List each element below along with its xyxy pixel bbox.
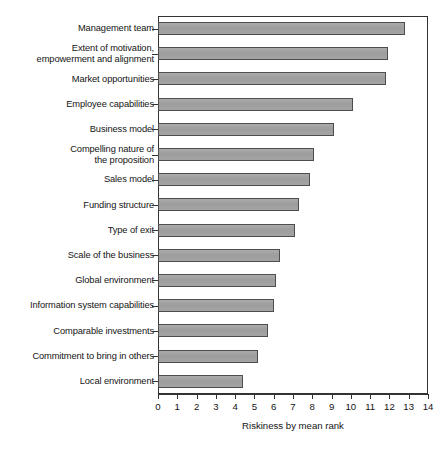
category-label: Local environment	[4, 376, 154, 387]
bar	[158, 148, 314, 161]
x-axis-tick	[351, 394, 352, 399]
bar-row: Market opportunities	[0, 66, 438, 91]
category-label: Compelling nature of the proposition	[4, 144, 154, 165]
bar-track	[158, 92, 428, 117]
x-axis-tick-label: 13	[403, 401, 414, 412]
x-axis-tick-label: 0	[155, 401, 160, 412]
bar	[158, 350, 258, 363]
x-axis-tick-label: 14	[423, 401, 434, 412]
bar-row: Local environment	[0, 369, 438, 394]
bar	[158, 98, 353, 111]
x-axis-tick-label: 6	[271, 401, 276, 412]
x-axis-tick	[389, 394, 390, 399]
category-label: Business model	[4, 124, 154, 135]
bar-row: Compelling nature of the proposition	[0, 142, 438, 167]
x-axis-tick	[197, 394, 198, 399]
category-label: Sales model	[4, 174, 154, 185]
x-axis-tick	[312, 394, 313, 399]
x-axis-tick-label: 8	[310, 401, 315, 412]
category-label: Type of exit	[4, 225, 154, 236]
bar	[158, 324, 268, 337]
bar-track	[158, 167, 428, 192]
x-axis-tick	[216, 394, 217, 399]
x-axis-tick-label: 2	[194, 401, 199, 412]
bar-row: Information system capabilities	[0, 293, 438, 318]
bar	[158, 224, 295, 237]
x-axis-tick-label: 9	[329, 401, 334, 412]
category-label: Management team	[4, 23, 154, 34]
bar-row: Management team	[0, 16, 438, 41]
bar-track	[158, 318, 428, 343]
bar-row: Extent of motivation, empowerment and al…	[0, 41, 438, 66]
x-axis-tick	[177, 394, 178, 399]
figure-container: Management teamExtent of motivation, emp…	[0, 0, 438, 449]
bar-row: Scale of the business	[0, 243, 438, 268]
bar-rows: Management teamExtent of motivation, emp…	[0, 16, 438, 394]
x-axis-label: Riskiness by mean rank	[158, 420, 428, 431]
bar-track	[158, 218, 428, 243]
category-label: Comparable investments	[4, 326, 154, 337]
x-axis-tick-label: 10	[346, 401, 357, 412]
bar-track	[158, 293, 428, 318]
x-axis-tick	[332, 394, 333, 399]
bar	[158, 249, 280, 262]
x-axis-tick-label: 3	[213, 401, 218, 412]
category-label: Funding structure	[4, 200, 154, 211]
bar-track	[158, 268, 428, 293]
bar-track	[158, 142, 428, 167]
category-label: Market opportunities	[4, 74, 154, 85]
x-axis-tick	[235, 394, 236, 399]
bar	[158, 72, 386, 85]
x-axis-tick	[428, 394, 429, 399]
x-axis-tick-label: 12	[384, 401, 395, 412]
category-label: Information system capabilities	[4, 300, 154, 311]
bar-track	[158, 66, 428, 91]
bar-row: Employee capabilities	[0, 92, 438, 117]
bar	[158, 299, 274, 312]
category-label: Global environment	[4, 275, 154, 286]
x-axis-tick	[158, 394, 159, 399]
bar-row: Sales model	[0, 167, 438, 192]
bar	[158, 375, 243, 388]
bar-track	[158, 243, 428, 268]
x-axis-tick	[274, 394, 275, 399]
bar-track	[158, 117, 428, 142]
bar-track	[158, 343, 428, 368]
x-axis-tick-label: 1	[175, 401, 180, 412]
category-label: Employee capabilities	[4, 99, 154, 110]
bar-track	[158, 16, 428, 41]
category-label: Scale of the business	[4, 250, 154, 261]
bar-row: Commitment to bring in others	[0, 343, 438, 368]
bar	[158, 198, 299, 211]
category-label: Commitment to bring in others	[4, 351, 154, 362]
x-axis-tick	[293, 394, 294, 399]
x-axis-tick-label: 4	[232, 401, 237, 412]
bar-row: Type of exit	[0, 218, 438, 243]
bar-row: Funding structure	[0, 192, 438, 217]
x-axis-tick-label: 11	[365, 401, 375, 412]
x-axis-tick	[409, 394, 410, 399]
bar	[158, 274, 276, 287]
bar-row: Business model	[0, 117, 438, 142]
bar-chart: Management teamExtent of motivation, emp…	[0, 8, 438, 393]
x-axis-tick	[370, 394, 371, 399]
bar	[158, 22, 405, 35]
bar-track	[158, 369, 428, 394]
x-axis-tick-label: 7	[290, 401, 295, 412]
x-axis-tick-label: 5	[252, 401, 257, 412]
bar	[158, 173, 310, 186]
x-axis-tick	[254, 394, 255, 399]
bar	[158, 123, 334, 136]
bar-track	[158, 192, 428, 217]
bar-row: Comparable investments	[0, 318, 438, 343]
bar-row: Global environment	[0, 268, 438, 293]
bar	[158, 47, 388, 60]
bar-track	[158, 41, 428, 66]
category-label: Extent of motivation, empowerment and al…	[4, 43, 154, 64]
